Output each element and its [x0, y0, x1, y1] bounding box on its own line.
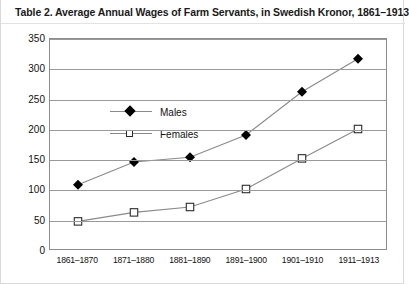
data-point-marker-diamond	[73, 180, 83, 190]
chart-title: Table 2. Average Annual Wages of Farm Se…	[15, 6, 399, 19]
data-point-marker-square	[242, 185, 249, 192]
y-axis-tick-label: 150	[5, 154, 45, 165]
legend-item-females: Females	[110, 123, 240, 145]
y-axis-tick-label: 300	[5, 63, 45, 74]
y-axis-labels: 050100150200250300350	[1, 38, 45, 250]
gridline	[50, 221, 386, 222]
legend-swatch-males	[110, 106, 152, 118]
filled-diamond-icon	[124, 105, 135, 116]
gridline	[50, 100, 386, 101]
y-axis-tick-label: 350	[5, 33, 45, 44]
gridline	[50, 39, 386, 40]
data-point-marker-diamond	[241, 130, 251, 140]
y-axis-tick-label: 0	[5, 245, 45, 256]
legend-item-males: Males	[110, 101, 240, 123]
chart-legend: Males Females	[110, 101, 240, 145]
data-point-marker-diamond	[353, 54, 363, 64]
x-axis-tick-label: 1911–1913	[331, 255, 387, 271]
data-point-marker-square	[130, 209, 137, 216]
data-point-marker-diamond	[297, 87, 307, 97]
data-point-marker-diamond	[129, 157, 139, 167]
gridline	[50, 130, 386, 131]
y-axis-tick-label: 100	[5, 184, 45, 195]
y-axis-tick-label: 250	[5, 93, 45, 104]
legend-label-males: Males	[152, 107, 187, 118]
x-axis-tick-label: 1891–1900	[218, 255, 274, 271]
title-divider	[1, 23, 405, 24]
gridline	[50, 160, 386, 161]
gridline	[50, 190, 386, 191]
y-axis-tick-label: 200	[5, 123, 45, 134]
x-axis-tick-label: 1861–1870	[49, 255, 105, 271]
data-point-marker-square	[186, 203, 193, 210]
x-axis-tick-label: 1901–1910	[274, 255, 330, 271]
x-axis-tick-label: 1871–1880	[105, 255, 161, 271]
x-axis-labels: 1861–18701871–18801881–18901891–19001901…	[49, 255, 387, 271]
y-axis-tick-label: 50	[5, 214, 45, 225]
plot-area: Males Females	[49, 38, 387, 250]
x-axis-tick-label: 1881–1890	[162, 255, 218, 271]
gridline	[50, 69, 386, 70]
